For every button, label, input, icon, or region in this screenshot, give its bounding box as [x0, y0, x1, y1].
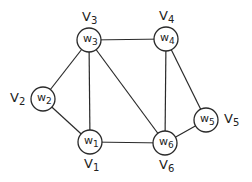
node-w1: w1V1 [78, 130, 102, 173]
node-w6: w6V6 [153, 131, 177, 174]
vertex-label: V6 [159, 157, 174, 174]
edge-w4-w5 [166, 39, 206, 120]
edge-w4-w6 [165, 39, 166, 143]
graph-diagram: w1V1w2V2w3V3w4V4w5V5w6V6 [0, 0, 252, 182]
vertex-label: V3 [82, 9, 97, 26]
node-w4: w4V4 [154, 8, 178, 51]
edges [43, 39, 206, 143]
node-w2: w2V2 [10, 87, 55, 111]
node-w5: w5V5 [194, 108, 239, 132]
edge-w3-w6 [89, 40, 165, 143]
vertex-label: V2 [10, 90, 25, 107]
edge-w3-w1 [89, 40, 90, 142]
nodes: w1V1w2V2w3V3w4V4w5V5w6V6 [10, 8, 239, 174]
vertex-label: V5 [224, 111, 239, 128]
node-w3: w3V3 [77, 9, 101, 52]
vertex-label: V1 [84, 156, 99, 173]
vertex-label: V4 [159, 8, 174, 25]
